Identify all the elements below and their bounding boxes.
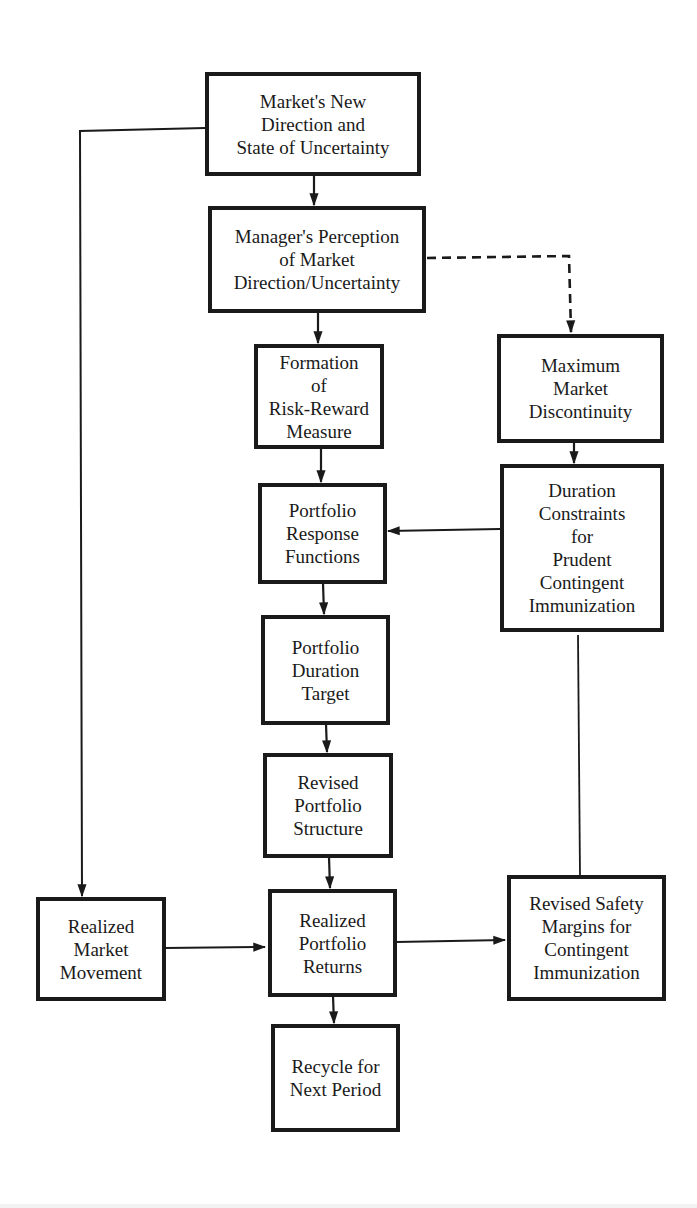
edge-constraints-to-safety bbox=[578, 635, 580, 876]
node-portfolio-duration-target: Portfolio Duration Target bbox=[261, 615, 390, 725]
node-risk-reward-measure: Formation of Risk-Reward Measure bbox=[254, 344, 384, 449]
node-label: Recycle for Next Period bbox=[290, 1055, 381, 1101]
node-portfolio-response-functions: Portfolio Response Functions bbox=[258, 483, 387, 584]
edge-realizedmarket-to-returns bbox=[165, 947, 265, 948]
edge-returns-to-safety bbox=[396, 940, 505, 942]
node-revised-safety-margins: Revised Safety Margins for Contingent Im… bbox=[507, 875, 666, 1001]
node-label: Realized Portfolio Returns bbox=[299, 909, 367, 978]
node-duration-constraints: Duration Constraints for Prudent Conting… bbox=[500, 464, 664, 632]
edge-market-to-realized-market bbox=[80, 128, 205, 896]
node-manager-perception: Manager's Perception of Market Direction… bbox=[208, 206, 426, 313]
edge-structure-to-returns bbox=[329, 857, 330, 888]
node-label: Realized Market Movement bbox=[60, 915, 142, 984]
node-label: Market's New Direction and State of Unce… bbox=[236, 90, 389, 159]
node-realized-portfolio-returns: Realized Portfolio Returns bbox=[268, 889, 397, 997]
page-bottom-edge bbox=[0, 1204, 697, 1208]
node-market-new-direction: Market's New Direction and State of Unce… bbox=[205, 72, 421, 176]
node-label: Maximum Market Discontinuity bbox=[529, 354, 632, 423]
node-label: Formation of Risk-Reward Measure bbox=[269, 351, 369, 443]
flowchart-canvas: Market's New Direction and State of Unce… bbox=[0, 0, 697, 1208]
node-label: Portfolio Response Functions bbox=[285, 499, 360, 568]
node-maximum-market-discontinuity: Maximum Market Discontinuity bbox=[497, 334, 664, 443]
node-label: Portfolio Duration Target bbox=[292, 636, 360, 705]
edge-response-to-target bbox=[323, 583, 324, 614]
node-label: Duration Constraints for Prudent Conting… bbox=[529, 479, 636, 617]
edge-returns-to-recycle bbox=[333, 996, 334, 1023]
edge-constraints-to-response bbox=[388, 529, 500, 531]
node-revised-portfolio-structure: Revised Portfolio Structure bbox=[263, 753, 393, 858]
node-label: Revised Portfolio Structure bbox=[293, 771, 363, 840]
edge-target-to-structure bbox=[326, 724, 327, 752]
edge-manager-to-discontinuity bbox=[427, 256, 571, 332]
node-realized-market-movement: Realized Market Movement bbox=[36, 897, 166, 1001]
node-recycle-next-period: Recycle for Next Period bbox=[271, 1024, 400, 1132]
node-label: Revised Safety Margins for Contingent Im… bbox=[529, 892, 644, 984]
node-label: Manager's Perception of Market Direction… bbox=[234, 225, 401, 294]
